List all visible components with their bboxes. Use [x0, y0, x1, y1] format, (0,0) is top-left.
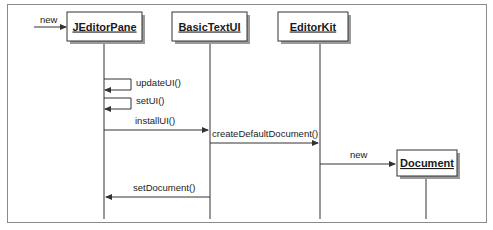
message-setui: setUI(): [104, 95, 165, 109]
self-call-arrow: [104, 79, 131, 90]
object-label: BasicTextUI: [178, 21, 240, 33]
message-label: setDocument(): [133, 182, 195, 193]
message-installui: installUI(): [104, 115, 208, 130]
object-editorkit: EditorKit: [278, 12, 351, 219]
message-label: setUI(): [136, 95, 165, 106]
object-label: EditorKit: [290, 21, 337, 33]
message-new: new: [34, 14, 66, 27]
message-label: new: [40, 14, 58, 25]
self-call-arrow: [104, 98, 131, 109]
message-new: new: [320, 149, 395, 164]
object-label: Document: [400, 157, 454, 169]
message-label: installUI(): [135, 115, 175, 126]
object-document: Document: [397, 150, 460, 219]
message-setdocument: setDocument(): [106, 182, 210, 197]
message-updateui: updateUI(): [104, 77, 181, 90]
message-createdefaultdocument: createDefaultDocument(): [210, 128, 318, 143]
message-label: createDefaultDocument(): [212, 128, 318, 139]
sequence-diagram: JEditorPaneBasicTextUIEditorKitDocumentn…: [0, 0, 493, 230]
message-label: updateUI(): [136, 77, 181, 88]
object-label: JEditorPane: [72, 21, 136, 33]
message-label: new: [350, 149, 368, 160]
